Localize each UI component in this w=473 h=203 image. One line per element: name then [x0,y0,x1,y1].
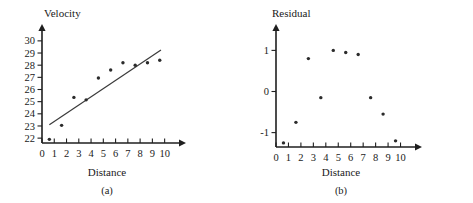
x-tick-label: 4 [88,148,94,159]
x-tick-label: 2 [298,152,303,163]
x-tick-label: 8 [373,152,378,163]
x-tick-label: 2 [64,148,69,159]
data-point [319,96,322,99]
x-tick-label: 8 [137,148,142,159]
panel-caption: (a) [101,185,113,197]
scatter-plot-panel-a: Velocity222324252627282930012345678910Di… [0,0,236,203]
x-tick-label: 5 [336,152,341,163]
y-axis-title: Velocity [44,7,81,19]
y-tick-label: 28 [25,60,36,71]
data-point [48,138,51,141]
x-axis-title: Distance [322,166,361,178]
data-point [394,139,397,142]
data-point [332,49,335,52]
x-tick-label: 1 [52,148,57,159]
x-tick-label: 4 [323,152,329,163]
y-tick-label: 29 [25,48,36,59]
data-point [134,63,137,66]
panel-caption: (b) [335,185,348,197]
y-axis-title: Residual [272,7,311,19]
y-tick-label: 26 [25,84,36,95]
x-tick-label: 9 [150,148,155,159]
data-point [344,51,347,54]
data-point [146,61,149,64]
x-axis-title: Distance [88,166,127,178]
data-point [307,57,310,60]
x-tick-label: 6 [113,148,118,159]
y-axis-arrowhead [38,24,45,31]
x-tick-label: 3 [76,148,81,159]
scatter-plot-panel-b: Residual-101012345678910Distance(b) [236,0,473,203]
y-tick-label: 23 [25,121,36,132]
y-tick-label: 27 [25,72,36,83]
y-tick-label: 1 [264,45,269,56]
y-tick-label: 0 [264,86,269,97]
regression-line [49,50,161,125]
x-tick-label: 3 [311,152,316,163]
data-point [72,96,75,99]
x-tick-label: 0 [39,148,44,159]
x-tick-label: 9 [385,152,390,163]
x-axis-arrowhead [179,139,186,146]
x-axis-arrowhead [415,143,422,150]
plot-a-canvas: Velocity222324252627282930012345678910Di… [0,0,236,203]
x-tick-label: 6 [348,152,353,163]
data-point [84,98,87,101]
data-point [109,68,112,71]
data-point [282,141,285,144]
data-point [97,76,100,79]
x-tick-label: 10 [395,152,406,163]
figure-container: Velocity222324252627282930012345678910Di… [0,0,473,203]
data-point [369,96,372,99]
x-tick-label: 1 [286,152,291,163]
y-tick-label: 30 [25,35,36,46]
y-tick-label: 22 [25,133,36,144]
x-tick-label: 7 [125,148,130,159]
y-tick-label: 24 [25,108,36,119]
x-tick-label: 0 [273,152,278,163]
x-tick-label: 10 [159,148,170,159]
data-point [381,112,384,115]
data-point [60,124,63,127]
plot-b-canvas: Residual-101012345678910Distance(b) [236,0,473,203]
data-point [158,59,161,62]
data-point [356,53,359,56]
y-tick-label: -1 [260,127,269,138]
x-tick-label: 7 [361,152,366,163]
y-tick-label: 25 [25,96,36,107]
y-axis-arrowhead [272,24,279,31]
x-tick-label: 5 [101,148,106,159]
data-point [121,61,124,64]
data-point [294,121,297,124]
